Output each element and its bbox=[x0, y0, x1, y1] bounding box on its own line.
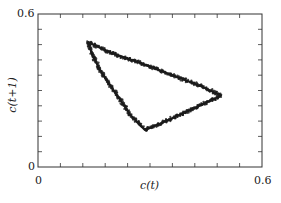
y-tick-max: 0.6 bbox=[17, 8, 35, 19]
y-tick-min: 0 bbox=[28, 161, 35, 172]
x-axis-title: c(t) bbox=[140, 180, 159, 191]
chart: 0.6 0 0 0.6 c(t) c(t+1) bbox=[0, 0, 281, 203]
axis-ticks bbox=[38, 14, 262, 167]
plot-frame bbox=[38, 14, 262, 167]
data-series bbox=[86, 40, 222, 132]
plot-area bbox=[0, 0, 281, 203]
y-axis-title: c(t+1) bbox=[6, 77, 19, 112]
x-tick-min: 0 bbox=[35, 175, 42, 186]
x-tick-max: 0.6 bbox=[254, 175, 272, 186]
